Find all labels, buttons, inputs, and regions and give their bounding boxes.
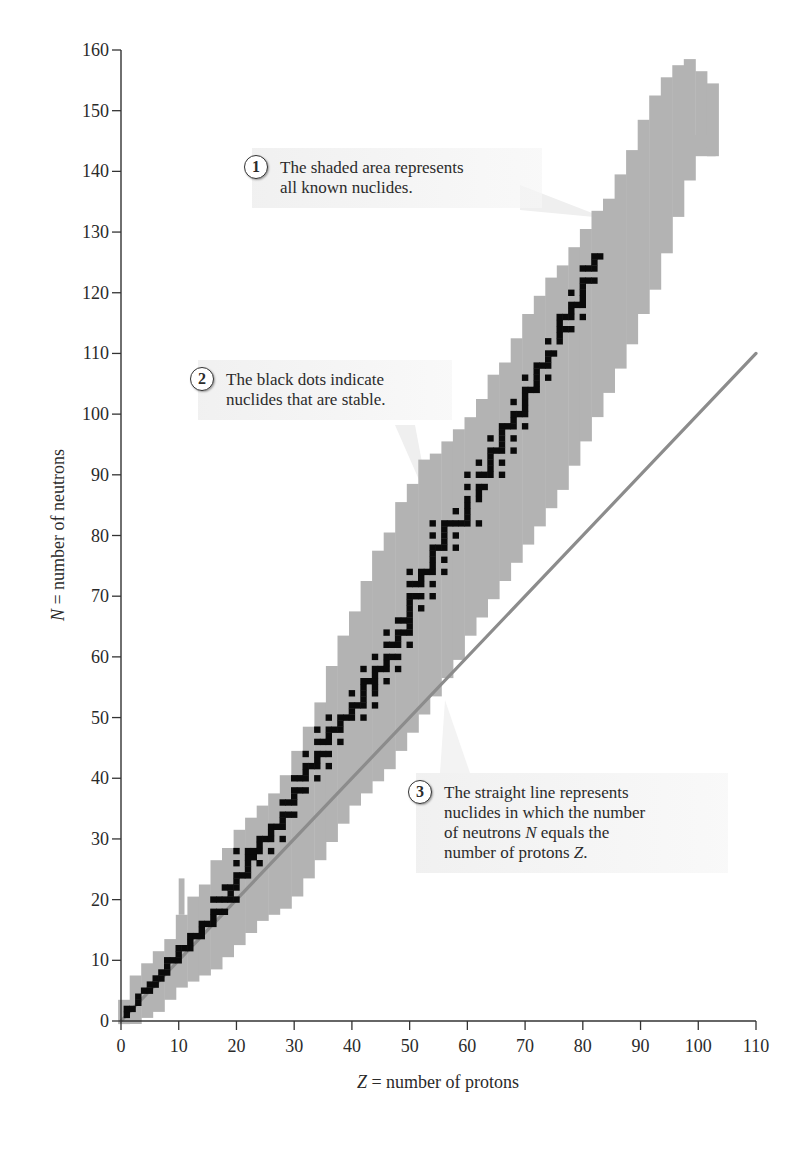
stable-nuclide-point (176, 957, 182, 963)
y-tick-label: 120 (82, 283, 109, 303)
stable-nuclide-point (395, 629, 401, 635)
stable-nuclide-point (476, 520, 482, 526)
stable-nuclide-point (435, 545, 441, 551)
stable-nuclide-point (395, 636, 401, 642)
stable-nuclide-point (199, 933, 205, 939)
y-tick-label: 140 (82, 161, 109, 181)
stable-nuclide-point (441, 526, 447, 532)
stable-nuclide-point (499, 460, 505, 466)
stable-nuclide-point (441, 569, 447, 575)
stable-nuclide-point (291, 787, 297, 793)
stable-nuclide-point (187, 933, 193, 939)
stable-nuclide-point (499, 472, 505, 478)
stable-nuclide-point (372, 690, 378, 696)
annotation-line: The straight line represents (444, 783, 629, 802)
band-column (179, 878, 185, 914)
stable-nuclide-point (458, 520, 464, 526)
annotation-line: . (583, 843, 587, 862)
band-column (488, 375, 500, 600)
stable-nuclide-point (176, 945, 182, 951)
stable-nuclide-point (510, 435, 516, 441)
x-axis-label-text: = number of protons (367, 1072, 519, 1092)
annotation-number-badge: 2 (190, 367, 214, 391)
stable-nuclide-point (303, 751, 309, 757)
y-tick-label: 10 (91, 950, 109, 970)
stable-nuclide-point (210, 915, 216, 921)
stable-nuclide-point (147, 988, 153, 994)
y-tick-label: 80 (91, 526, 109, 546)
x-tick-label: 50 (401, 1036, 419, 1056)
stable-nuclide-point (441, 557, 447, 563)
stable-nuclide-point (291, 799, 297, 805)
stable-nuclide-point (522, 393, 528, 399)
stable-nuclide-point (464, 502, 470, 508)
stable-nuclide-point (430, 569, 436, 575)
stable-nuclide-point (453, 520, 459, 526)
x-tick-label: 10 (170, 1036, 188, 1056)
stable-nuclide-point (464, 520, 470, 526)
stable-nuclide-point (395, 642, 401, 648)
stable-nuclide-point (487, 447, 493, 453)
stable-nuclide-point (314, 739, 320, 745)
stable-nuclide-point (245, 860, 251, 866)
stable-nuclide-point (349, 690, 355, 696)
y-tick-label: 110 (83, 343, 109, 363)
stable-nuclide-point (337, 714, 343, 720)
band-column (303, 727, 315, 879)
y-tick-label: 40 (91, 768, 109, 788)
stable-nuclide-point (158, 975, 164, 981)
y-tick-label: 150 (82, 101, 109, 121)
stable-nuclide-point (464, 508, 470, 514)
stable-nuclide-point (268, 848, 274, 854)
stable-nuclide-point (499, 441, 505, 447)
stable-nuclide-point (580, 284, 586, 290)
stable-nuclide-point (476, 490, 482, 496)
stable-nuclide-point (522, 423, 528, 429)
stable-nuclide-point (245, 854, 251, 860)
stable-nuclide-point (199, 921, 205, 927)
stable-nuclide-point (562, 314, 568, 320)
band-column (693, 135, 716, 147)
stable-nuclide-point (193, 933, 199, 939)
annotation-line: nuclides in which the number (444, 803, 645, 822)
stable-nuclide-point (170, 957, 176, 963)
stable-nuclide-point (487, 472, 493, 478)
stable-nuclide-point (430, 545, 436, 551)
stable-nuclide-point (430, 557, 436, 563)
annotation-line: of neutrons (444, 823, 525, 842)
stable-nuclide-point (251, 854, 257, 860)
band-column (557, 265, 569, 490)
stable-nuclide-point (314, 727, 320, 733)
stable-nuclide-point (430, 551, 436, 557)
stable-nuclide-point (176, 951, 182, 957)
stable-nuclide-point (407, 617, 413, 623)
y-tick-label: 60 (91, 647, 109, 667)
stable-nuclide-point (395, 666, 401, 672)
stable-nuclide-point (274, 824, 280, 830)
stable-nuclide-point (441, 520, 447, 526)
annotation-3-n-equals-z-line: 3 The straight line representsnuclides i… (416, 773, 728, 873)
stable-nuclide-point (245, 848, 251, 854)
stable-nuclide-point (487, 466, 493, 472)
band-column (534, 296, 546, 527)
stable-nuclide-point (534, 362, 540, 368)
stable-nuclide-point (141, 988, 147, 994)
band-column (603, 199, 615, 393)
stable-nuclide-point (453, 532, 459, 538)
stable-nuclide-point (499, 447, 505, 453)
stable-nuclide-point (407, 599, 413, 605)
stable-nuclide-point (568, 326, 574, 332)
stable-nuclide-point (383, 666, 389, 672)
stable-nuclide-point (418, 575, 424, 581)
stable-nuclide-point (510, 399, 516, 405)
band-column (580, 229, 592, 441)
stable-nuclide-point (164, 969, 170, 975)
stable-nuclide-point (493, 447, 499, 453)
stable-nuclide-point (585, 265, 591, 271)
stable-nuclide-point (233, 872, 239, 878)
stable-nuclide-point (216, 909, 222, 915)
stable-nuclide-point (534, 369, 540, 375)
band-column (568, 247, 580, 466)
stable-nuclide-point (303, 763, 309, 769)
annotation-variable-n: N (525, 823, 536, 842)
